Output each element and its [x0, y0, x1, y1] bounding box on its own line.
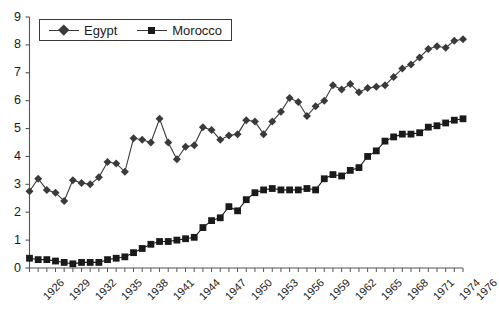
y-axis-tick-label: 7: [3, 66, 21, 79]
legend-item-morocco: Morocco: [137, 24, 222, 37]
legend-label-egypt: Egypt: [84, 24, 117, 37]
y-axis-tick-label: 3: [3, 178, 21, 191]
y-axis-tick-label: 2: [3, 206, 21, 219]
square-marker-icon: [137, 24, 167, 36]
chart-legend: Egypt Morocco: [39, 19, 232, 41]
y-axis-tick-label: 5: [3, 122, 21, 135]
y-axis-tick-label: 6: [3, 94, 21, 107]
y-axis-tick-label: 0: [3, 262, 21, 275]
y-axis-tick-label: 1: [3, 234, 21, 247]
legend-item-egypt: Egypt: [49, 24, 117, 37]
y-axis-tick-label: 8: [3, 38, 21, 51]
y-axis-tick-label: 9: [3, 11, 21, 24]
y-axis-tick-label: 4: [3, 150, 21, 163]
legend-label-morocco: Morocco: [172, 24, 222, 37]
diamond-marker-icon: [49, 24, 79, 36]
